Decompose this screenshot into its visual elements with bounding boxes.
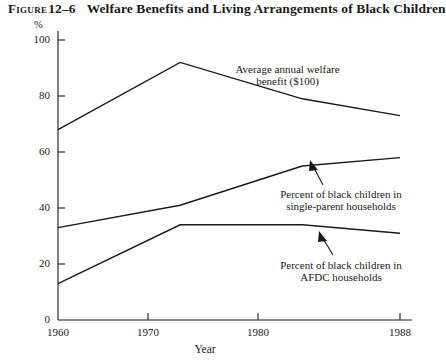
annotation-welfare-benefit-line2: benefit ($100) [200,75,375,87]
y-tick-label-80: 80 [16,89,50,101]
x-axis-ticks [148,313,400,320]
annotation-single-parent: Percent of black children in single-pare… [251,188,431,213]
annotation-single-parent-line1: Percent of black children in [251,188,431,200]
leader-afdc [318,231,333,255]
x-tick-label-1988: 1988 [377,326,423,338]
y-tick-label-20: 20 [16,257,50,269]
y-axis-ticks [58,40,65,264]
annotation-afdc-line1: Percent of black children in [251,259,431,271]
annotation-single-parent-line2: single-parent households [251,200,431,212]
y-axis-unit-label: % [34,19,43,30]
y-tick-label-40: 40 [16,201,50,213]
annotation-welfare-benefit: Average annual welfare benefit ($100) [200,63,375,88]
y-tick-label-60: 60 [16,145,50,157]
x-axis-title: Year [175,343,235,355]
annotation-afdc-line2: AFDC households [251,271,431,283]
annotation-welfare-benefit-line1: Average annual welfare [200,63,375,75]
x-tick-label-1970: 1970 [125,326,171,338]
annotation-afdc: Percent of black children in AFDC househ… [251,259,431,284]
x-tick-label-1980: 1980 [235,326,281,338]
y-tick-label-100: 100 [16,33,50,45]
y-tick-label-0: 0 [16,313,50,325]
x-tick-label-1960: 1960 [35,326,81,338]
